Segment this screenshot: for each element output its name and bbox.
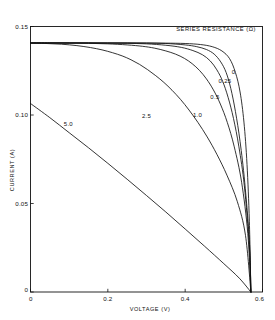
curve-5.0: [31, 104, 251, 293]
x-axis-title: VOLTAGE (V): [130, 306, 171, 312]
y-axis-ticks: [31, 27, 34, 293]
chart-canvas: 00.20.40.6 00.050.100.15 00.250.51.02.55…: [0, 0, 275, 320]
x-axis-ticks: [31, 289, 263, 292]
legend-title: SERIES RESISTANCE (Ω): [176, 26, 256, 32]
y-tick-label: 0.05: [15, 200, 28, 207]
x-tick-label: 0: [29, 295, 33, 302]
y-axis-title: CURRENT (A): [9, 149, 15, 191]
y-tick-label: 0: [24, 286, 28, 293]
y-tick-label: 0.10: [15, 111, 28, 118]
curve-labels: 00.250.51.02.55.0: [64, 69, 236, 127]
curve-label-2.5: 2.5: [142, 113, 152, 119]
x-axis-tick-labels: 00.20.40.6: [29, 295, 264, 302]
y-axis-tick-labels: 00.050.100.15: [15, 23, 28, 293]
x-tick-label: 0.4: [181, 295, 190, 302]
curve-label-0.5: 0.5: [210, 94, 220, 100]
plot-frame: [31, 27, 263, 293]
curve-label-0.25: 0.25: [219, 78, 232, 84]
curve-label-0: 0: [232, 69, 236, 75]
x-tick-label: 0.6: [255, 295, 264, 302]
x-tick-label: 0.2: [103, 295, 112, 302]
iv-curve-figure: 00.20.40.6 00.050.100.15 00.250.51.02.55…: [0, 0, 275, 320]
curve-label-5.0: 5.0: [64, 121, 74, 127]
curve-label-1.0: 1.0: [193, 112, 203, 118]
y-tick-label: 0.15: [15, 23, 28, 30]
